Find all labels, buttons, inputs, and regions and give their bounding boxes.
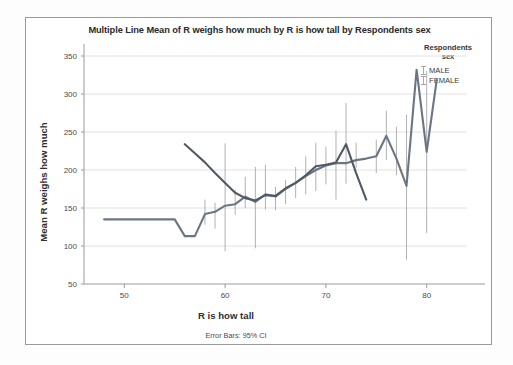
- plot-svg: 5010015020025030035050607080: [26, 18, 493, 318]
- svg-text:150: 150: [64, 204, 78, 213]
- svg-text:70: 70: [321, 291, 330, 300]
- svg-text:250: 250: [64, 128, 78, 137]
- svg-text:60: 60: [221, 291, 230, 300]
- svg-text:300: 300: [64, 90, 78, 99]
- svg-text:50: 50: [120, 291, 129, 300]
- svg-text:200: 200: [64, 166, 78, 175]
- chart-footnote: Error Bars: 95% CI: [26, 331, 446, 340]
- svg-text:350: 350: [64, 52, 78, 61]
- svg-text:50: 50: [68, 280, 77, 289]
- chart-frame: Multiple Line Mean of R weighs how much …: [25, 17, 492, 345]
- svg-text:80: 80: [422, 291, 431, 300]
- plot-area: 5010015020025030035050607080: [26, 18, 493, 346]
- x-axis-label: R is how tall: [26, 310, 426, 321]
- svg-text:100: 100: [64, 242, 78, 251]
